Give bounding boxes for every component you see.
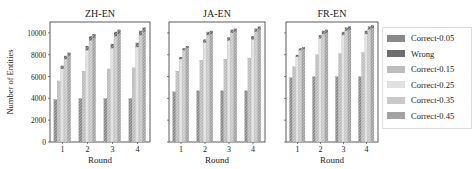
bar xyxy=(54,99,57,142)
bar xyxy=(176,71,179,142)
bar xyxy=(182,50,185,142)
x-tick-label: 4 xyxy=(365,145,369,154)
bar xyxy=(67,56,70,142)
bar xyxy=(319,38,322,142)
bar xyxy=(186,48,189,142)
bar-wrong-cap xyxy=(114,32,117,36)
x-tick-label: 1 xyxy=(179,145,183,154)
bar-wrong-cap xyxy=(371,25,374,28)
bar xyxy=(136,47,139,142)
bar xyxy=(322,34,325,142)
bar-wrong-cap xyxy=(182,48,185,50)
bar-wrong-cap xyxy=(67,53,70,56)
bar xyxy=(200,60,203,142)
bar xyxy=(92,38,95,142)
bar xyxy=(251,39,254,142)
bar-wrong-cap xyxy=(210,31,213,34)
bar-wrong-cap xyxy=(89,36,92,40)
panel-title: JA-EN xyxy=(203,8,231,19)
bar xyxy=(335,77,338,142)
bar xyxy=(139,35,142,142)
bar xyxy=(248,58,251,142)
bar-wrong-cap xyxy=(86,46,89,50)
bar xyxy=(82,71,85,142)
bar-wrong-cap xyxy=(258,26,261,29)
bar xyxy=(371,29,374,142)
x-tick-label: 2 xyxy=(86,145,90,154)
bar xyxy=(86,50,89,142)
bar xyxy=(345,31,348,142)
x-tick-label: 2 xyxy=(203,145,207,154)
bar-wrong-cap xyxy=(186,46,189,48)
x-tick-label: 1 xyxy=(296,145,300,154)
legend-swatch xyxy=(387,112,405,119)
bar xyxy=(227,41,230,142)
legend-label: Correct-0.35 xyxy=(411,95,454,105)
bar xyxy=(362,53,365,142)
bar xyxy=(254,32,257,142)
bar-wrong-cap xyxy=(345,27,348,30)
legend-label: Wrong xyxy=(411,49,434,59)
bar xyxy=(142,32,145,142)
bar xyxy=(342,35,345,142)
bar-wrong-cap xyxy=(92,34,95,38)
legend-item: Correct-0.25 xyxy=(387,80,454,90)
legend-label: Correct-0.15 xyxy=(411,64,454,74)
bar-wrong-cap xyxy=(179,57,182,59)
bar xyxy=(296,57,299,142)
legend-swatch xyxy=(387,97,405,104)
bar-wrong-cap xyxy=(136,43,139,47)
bar-wrong-cap xyxy=(142,27,145,31)
bar xyxy=(258,30,261,142)
bar-wrong-cap xyxy=(203,39,206,42)
y-tick-label: 2000 xyxy=(31,116,46,125)
bar xyxy=(117,34,120,142)
bar xyxy=(79,98,82,142)
legend-swatch xyxy=(387,66,405,73)
bar xyxy=(293,67,296,142)
bar xyxy=(206,35,209,142)
legend-item: Correct-0.15 xyxy=(387,64,454,74)
x-tick-label: 4 xyxy=(251,145,255,154)
bar-wrong-cap xyxy=(365,31,368,34)
bar xyxy=(129,98,132,142)
bar-wrong-cap xyxy=(342,32,345,35)
bar-wrong-cap xyxy=(64,56,67,59)
bar-wrong-cap xyxy=(111,44,114,48)
bar xyxy=(289,78,292,142)
bar xyxy=(89,41,92,142)
bar xyxy=(299,50,302,142)
bar-wrong-cap xyxy=(322,31,325,34)
x-tick-label: 3 xyxy=(342,145,346,154)
bar xyxy=(358,77,361,142)
panel-zh-en: ZH-EN02000400060008000100001234Round xyxy=(27,8,150,165)
legend: Correct-0.05WrongCorrect-0.15Correct-0.2… xyxy=(382,27,472,129)
panel-title: FR-EN xyxy=(318,8,347,19)
bar xyxy=(64,59,67,142)
x-tick-label: 3 xyxy=(111,145,115,154)
bar xyxy=(230,33,233,142)
bar xyxy=(61,69,64,142)
bar-wrong-cap xyxy=(319,35,322,38)
x-axis-label: Round xyxy=(320,155,345,165)
bar xyxy=(224,59,227,142)
legend-label: Correct-0.45 xyxy=(411,111,454,121)
panel-fr-en: FR-EN1234Round xyxy=(284,8,378,165)
bar xyxy=(132,68,135,142)
bar xyxy=(312,77,315,142)
bar xyxy=(221,91,224,142)
bar xyxy=(111,48,114,142)
bar-wrong-cap xyxy=(325,30,328,33)
bar xyxy=(325,33,328,142)
y-tick-label: 10000 xyxy=(27,29,46,38)
bar-wrong-cap xyxy=(139,31,142,35)
y-tick-label: 8000 xyxy=(31,51,46,60)
bar xyxy=(179,59,182,142)
y-tick-label: 4000 xyxy=(31,94,46,103)
bar-wrong-cap xyxy=(296,55,299,57)
bar xyxy=(348,30,351,142)
bar-wrong-cap xyxy=(234,29,237,32)
bar xyxy=(365,34,368,142)
bar-wrong-cap xyxy=(230,30,233,33)
legend-label: Correct-0.25 xyxy=(411,80,454,90)
